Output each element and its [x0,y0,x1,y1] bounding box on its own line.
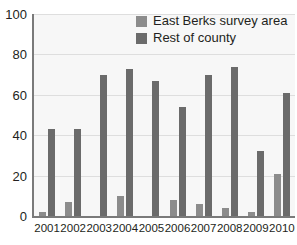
bar [48,129,55,216]
bar [100,75,107,216]
y-tick-label: 60 [13,88,27,101]
y-axis-line [32,14,34,218]
bar [170,200,177,216]
chart-legend: East Berks survey areaRest of county [136,14,287,45]
y-tick-label: 40 [13,129,27,142]
bar [274,174,281,216]
x-tick-label: 2007 [191,222,217,235]
bar-chart: 020406080100 East Berks survey areaRest … [0,0,297,245]
x-axis-line [32,216,295,218]
bar [65,202,72,216]
bar [179,107,186,216]
bar [74,129,81,216]
legend-swatch-icon [136,16,147,27]
legend-label: Rest of county [153,31,236,45]
x-tick-label: 2003 [86,222,112,235]
bar [205,75,212,216]
y-axis-labels: 020406080100 [0,0,30,245]
x-tick-label: 2008 [217,222,243,235]
bar-group [34,14,60,216]
bar [126,69,133,216]
y-tick-label: 0 [20,210,27,223]
x-tick-label: 2009 [243,222,269,235]
x-tick-label: 2001 [34,222,60,235]
bar [196,204,203,216]
bar [152,81,159,216]
x-tick-label: 2006 [164,222,190,235]
bar-group [112,14,138,216]
legend-item[interactable]: Rest of county [136,31,287,45]
legend-label: East Berks survey area [153,14,287,28]
x-tick-label: 2002 [60,222,86,235]
bar [222,208,229,216]
bar-group [86,14,112,216]
y-tick-label: 20 [13,169,27,182]
bar-group [60,14,86,216]
x-axis-labels: 2001200220032004200520062007200820092010 [34,222,295,235]
x-tick-label: 2005 [138,222,164,235]
bar [231,67,238,216]
y-tick-label: 100 [5,8,27,21]
x-tick-label: 2010 [269,222,295,235]
bar [117,196,124,216]
bar [283,93,290,216]
y-tick-label: 80 [13,48,27,61]
legend-item[interactable]: East Berks survey area [136,14,287,28]
bar [257,151,264,216]
legend-swatch-icon [136,33,147,44]
x-tick-label: 2004 [112,222,138,235]
